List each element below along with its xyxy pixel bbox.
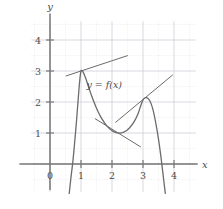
y-tick-label: 1 [35,128,41,139]
x-tick-label: 0 [47,170,53,181]
y-tick-label: 2 [35,97,41,108]
curve-equation-label: y = f(x) [85,79,122,90]
y-axis-label: y [46,1,53,12]
x-tick-label: 3 [140,170,146,181]
y-tick-label: 4 [35,35,41,46]
x-tick-label: 4 [171,170,177,181]
graph-canvas: 012341234 y x y = f(x) [0,0,223,209]
x-tick-label: 2 [109,170,115,181]
x-tick-label: 1 [78,170,84,181]
y-tick-label: 3 [35,66,41,77]
x-axis-label: x [202,159,208,170]
function-graph-figure: 012341234 y x y = f(x) [0,0,223,209]
